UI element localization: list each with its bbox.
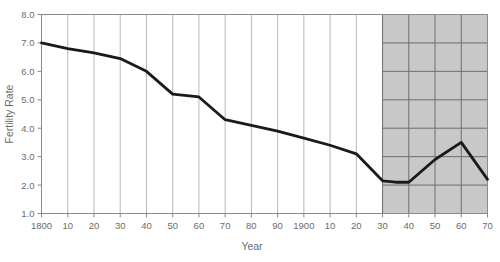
y-tick-label: 7.0 <box>21 37 34 48</box>
x-tick-label: 60 <box>456 220 467 231</box>
y-tick-label: 8.0 <box>21 9 34 20</box>
y-tick-label: 2.0 <box>21 180 34 191</box>
y-tick-label: 1.0 <box>21 208 34 219</box>
x-tick-label: 70 <box>482 220 493 231</box>
x-tick-label: 50 <box>167 220 178 231</box>
x-axis-title: Year <box>241 240 263 252</box>
x-tick-label: 10 <box>62 220 73 231</box>
x-tick-label: 30 <box>115 220 126 231</box>
x-tick-label: 30 <box>377 220 388 231</box>
x-tick-label: 40 <box>141 220 152 231</box>
x-tick-label: 20 <box>89 220 100 231</box>
x-tick-label: 1800 <box>31 220 52 231</box>
y-axis-title: Fertility Rate <box>3 84 15 143</box>
y-tick-label: 6.0 <box>21 66 34 77</box>
y-tick-label: 3.0 <box>21 151 34 162</box>
x-tick-label: 60 <box>194 220 205 231</box>
x-tick-label: 20 <box>351 220 362 231</box>
x-tick-label: 80 <box>246 220 257 231</box>
x-tick-label: 40 <box>404 220 415 231</box>
fertility-rate-chart: 1800102030405060708090190010203040506070… <box>0 0 500 262</box>
chart-canvas: 1800102030405060708090190010203040506070… <box>0 0 500 262</box>
x-tick-label: 50 <box>430 220 441 231</box>
y-tick-label: 4.0 <box>21 123 34 134</box>
x-tick-label: 90 <box>272 220 283 231</box>
y-tick-label: 5.0 <box>21 94 34 105</box>
x-tick-label: 70 <box>220 220 231 231</box>
x-tick-label: 1900 <box>293 220 314 231</box>
x-tick-label: 10 <box>325 220 336 231</box>
